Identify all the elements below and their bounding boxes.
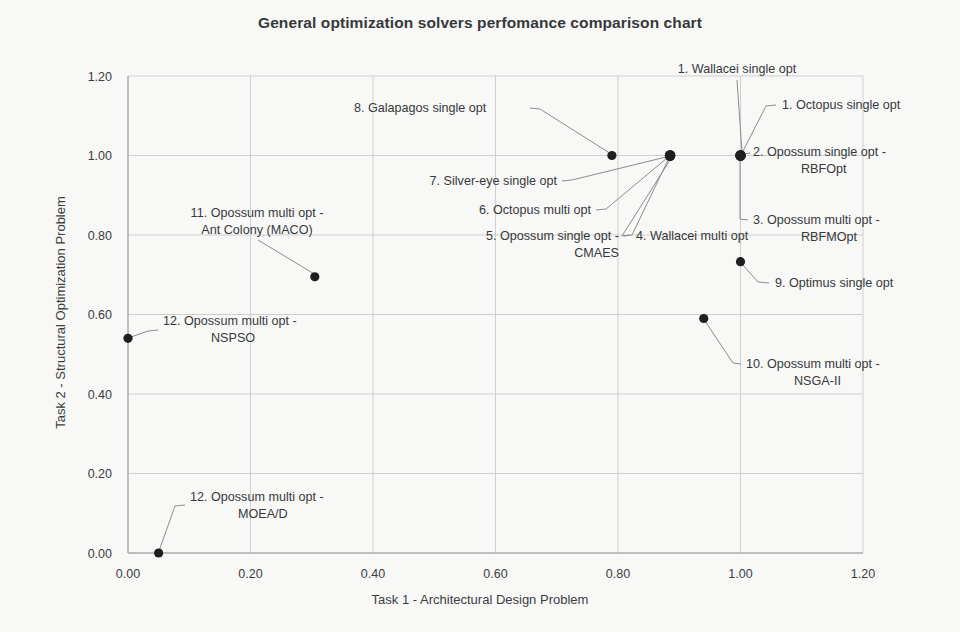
x-tick-label: 0.20 [238, 567, 262, 581]
x-tick-label: 1.00 [728, 567, 752, 581]
ann-galapagos-single: 8. Galapagos single opt [354, 101, 487, 115]
leader-line [530, 108, 608, 152]
x-tick-label: 0.00 [116, 567, 140, 581]
ann-octopus-multi: 6. Octopus multi opt [479, 203, 591, 217]
annotation-labels: 1. Wallacei single opt1. Octopus single … [163, 62, 901, 521]
scatter-chart: General optimization solvers perfomance … [0, 0, 960, 632]
x-tick-label: 0.80 [606, 567, 630, 581]
ann-opossum-rbfopt: 2. Opossum single opt -RBFOpt [753, 145, 886, 176]
ann-optimus-single: 9. Optimus single opt [775, 276, 894, 290]
y-tick-labels: 0.000.200.400.600.801.001.20 [88, 70, 112, 561]
data-point [699, 314, 708, 323]
ann-nsga2: 10. Opossum multi opt -NSGA-II [746, 357, 880, 388]
ann-opossum-rbfmopt: 3. Opossum multi opt -RBFMOpt [753, 213, 880, 244]
leader-line [159, 505, 185, 551]
y-tick-label: 0.80 [88, 229, 112, 243]
data-point [310, 272, 319, 281]
ann-octopus-single: 1. Octopus single opt [782, 98, 901, 112]
y-tick-label: 0.60 [88, 308, 112, 322]
x-tick-label: 0.40 [361, 567, 385, 581]
data-point [123, 334, 132, 343]
leader-line [740, 158, 748, 220]
ann-wallacei-single: 1. Wallacei single opt [678, 62, 797, 76]
ann-opossum-cmaes: 5. Opossum single opt -CMAES [486, 229, 619, 260]
y-tick-label: 1.00 [88, 149, 112, 163]
ann-silvereye-single: 7. Silver-eye single opt [430, 174, 558, 188]
x-axis-title: Task 1 - Architectural Design Problem [0, 592, 960, 607]
leader-line [131, 330, 158, 337]
ann-maco: 11. Opossum multi opt -Ant Colony (MACO) [191, 206, 324, 237]
ann-moead: 12. Opossum multi opt -MOEA/D [190, 490, 324, 521]
plot-area: 0.000.200.400.600.801.001.20 0.000.200.4… [0, 0, 960, 632]
ann-wallacei-multi: 4. Wallacei multi opt [636, 229, 749, 243]
x-tick-label: 1.20 [851, 567, 875, 581]
leader-line [703, 318, 741, 364]
data-point [736, 257, 745, 266]
y-axis-title: Task 2 - Structural Optimization Problem [53, 103, 68, 523]
x-tick-label: 0.60 [483, 567, 507, 581]
leader-line [737, 80, 742, 152]
y-tick-label: 1.20 [88, 70, 112, 84]
data-point [665, 150, 675, 160]
y-tick-label: 0.40 [88, 388, 112, 402]
leader-line [741, 263, 769, 283]
data-point [607, 151, 616, 160]
y-tick-label: 0.00 [88, 547, 112, 561]
leader-line [258, 240, 316, 275]
x-tick-labels: 0.000.200.400.600.801.001.20 [116, 567, 875, 581]
y-tick-label: 0.20 [88, 467, 112, 481]
leader-line [562, 157, 666, 181]
data-point [735, 150, 745, 160]
ann-nspso: 12. Opossum multi opt -NSPSO [163, 314, 297, 345]
data-point [154, 548, 163, 557]
